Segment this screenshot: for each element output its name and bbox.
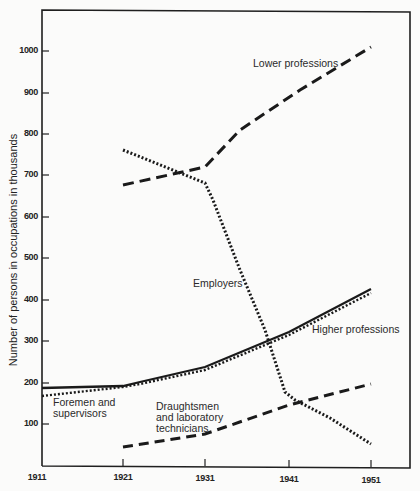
label-higher-professions: Higher professions (312, 324, 400, 335)
y-tick-100: 100 (2, 418, 38, 428)
label-lower-professions: Lower professions (253, 58, 338, 69)
y-axis-ticks (42, 51, 49, 424)
x-tick-1911: 1911 (17, 472, 57, 482)
label-draughtsmen-line3: technicians (156, 423, 209, 434)
y-tick-1000: 1000 (2, 45, 38, 55)
label-employers: Employers (193, 278, 243, 289)
x-tick-1941: 1941 (269, 474, 309, 484)
x-tick-1931: 1931 (185, 473, 225, 483)
series-higher-professions (42, 289, 371, 388)
series-foremen-supervisors (42, 293, 371, 396)
x-axis-ticks (123, 459, 371, 467)
y-tick-900: 900 (2, 87, 38, 97)
y-axis-label: Number of persons in occupations in thou… (7, 120, 19, 380)
x-tick-1921: 1921 (103, 472, 143, 482)
label-foremen-line2: supervisors (53, 408, 107, 419)
x-tick-1951: 1951 (351, 475, 391, 485)
